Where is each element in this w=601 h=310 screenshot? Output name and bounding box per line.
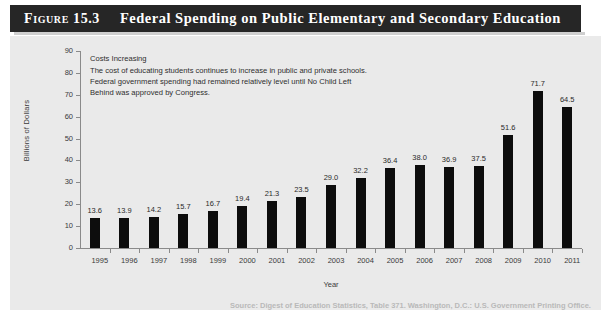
y-axis-tick: [76, 73, 81, 74]
bar: [267, 201, 277, 248]
bar-value-label: 16.7: [199, 200, 227, 208]
bar-value-label: 38.0: [406, 154, 434, 162]
bar-value-label: 23.5: [287, 186, 315, 194]
y-axis-tick: [76, 95, 81, 96]
figure-title: Federal Spending on Public Elementary an…: [120, 10, 561, 27]
y-axis-tick-label: 30: [46, 178, 73, 186]
y-axis-line: [80, 51, 81, 249]
y-axis-tick-label: 40: [46, 156, 73, 164]
bar: [562, 107, 572, 248]
bar: [503, 135, 513, 248]
figure-number: Figure 15.3: [24, 11, 100, 27]
y-axis-tick-label: 90: [46, 47, 73, 55]
bar-value-label: 36.9: [435, 156, 463, 164]
x-axis-tick: [464, 249, 465, 253]
bar-value-label: 64.5: [553, 96, 581, 104]
figure-title-bar: Figure 15.3 Federal Spending on Public E…: [10, 5, 581, 32]
y-axis-tick: [76, 204, 81, 205]
x-axis-tick: [198, 249, 199, 253]
y-axis-tick-label: 10: [46, 222, 73, 230]
x-axis-line: [80, 248, 582, 249]
bar: [296, 197, 306, 248]
y-axis-tick-label: 50: [46, 135, 73, 143]
title-bar-shadow: [14, 32, 585, 35]
bar: [356, 178, 366, 248]
annotation-heading: Costs Increasing: [90, 53, 410, 64]
bar-value-label: 14.2: [140, 206, 168, 214]
bar: [385, 168, 395, 248]
x-axis-tick: [493, 249, 494, 253]
y-axis-tick: [76, 248, 81, 249]
bar-value-label: 29.0: [317, 174, 345, 182]
y-axis-tick-label: 80: [46, 69, 73, 77]
bar: [178, 214, 188, 248]
x-axis-tick: [523, 249, 524, 253]
y-axis-tick: [76, 226, 81, 227]
x-axis-tick: [434, 249, 435, 253]
bar-value-label: 21.3: [258, 190, 286, 198]
y-axis-tick: [76, 51, 81, 52]
x-axis-tick-label: 2011: [555, 256, 589, 265]
bar: [533, 91, 543, 248]
bar: [415, 165, 425, 248]
bar: [474, 166, 484, 248]
bar-value-label: 71.7: [524, 80, 552, 88]
bar-value-label: 13.6: [81, 207, 109, 215]
y-axis-tick: [76, 160, 81, 161]
bar-value-label: 36.4: [376, 157, 404, 165]
x-axis-tick: [139, 249, 140, 253]
figure-container: Figure 15.3 Federal Spending on Public E…: [0, 0, 601, 310]
bar-value-label: 51.6: [494, 124, 522, 132]
x-axis-tick: [582, 249, 583, 253]
x-axis-tick: [405, 249, 406, 253]
y-axis-tick-label: 0: [46, 244, 73, 252]
bar-value-label: 15.7: [169, 203, 197, 211]
bar: [208, 211, 218, 248]
y-axis-tick: [76, 117, 81, 118]
bar-value-label: 19.4: [228, 195, 256, 203]
annotation-line: Federal government spending had remained…: [90, 76, 410, 87]
bar: [119, 218, 129, 248]
y-axis-tick: [76, 182, 81, 183]
bar-value-label: 37.5: [465, 155, 493, 163]
plot-area: 0102030405060708090 Billions of Dollars …: [10, 36, 601, 310]
x-axis-tick: [257, 249, 258, 253]
chart-annotation: Costs Increasing The cost of educating s…: [90, 53, 410, 98]
y-axis-title: Billions of Dollars: [22, 86, 31, 176]
x-axis-title: Year: [80, 280, 582, 289]
x-axis-tick: [287, 249, 288, 253]
source-note: Source: Digest of Education Statistics, …: [230, 301, 601, 310]
x-axis-tick: [169, 249, 170, 253]
bar-value-label: 13.9: [110, 207, 138, 215]
bar: [149, 217, 159, 248]
x-axis-tick: [228, 249, 229, 253]
annotation-line: The cost of educating students continues…: [90, 65, 410, 76]
x-axis-tick: [110, 249, 111, 253]
y-axis-tick-label: 60: [46, 113, 73, 121]
chart-panel: 0102030405060708090 Billions of Dollars …: [10, 36, 601, 310]
bar: [444, 167, 454, 248]
x-axis-tick: [375, 249, 376, 253]
bar: [326, 185, 336, 248]
bar: [90, 218, 100, 248]
x-axis-tick: [316, 249, 317, 253]
bar: [237, 206, 247, 248]
bar-value-label: 32.2: [347, 167, 375, 175]
y-axis-tick: [76, 139, 81, 140]
y-axis-tick-label: 70: [46, 91, 73, 99]
y-axis-tick-label: 20: [46, 200, 73, 208]
annotation-line: Behind was approved by Congress.: [90, 87, 410, 98]
x-axis-tick: [552, 249, 553, 253]
x-axis-tick: [346, 249, 347, 253]
